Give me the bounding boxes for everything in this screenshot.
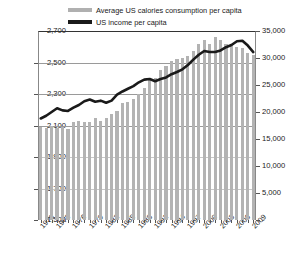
x-tickmark-2009	[253, 220, 254, 223]
x-tickmark-1976	[73, 220, 74, 223]
right-tickmark-5000	[256, 193, 260, 194]
x-tickmark-1988	[139, 220, 140, 223]
right-axis-tick-label: 10,000	[262, 162, 285, 170]
x-tickmark-2003	[221, 220, 222, 223]
x-tickmark-1999	[199, 220, 200, 223]
plot-frame	[38, 31, 256, 220]
x-tickmark-1974	[63, 220, 64, 223]
right-tickmark-10000	[256, 166, 260, 167]
right-axis-tick-label: 25,000	[262, 81, 285, 89]
left-tickmark-1900	[34, 157, 38, 158]
x-tickmark-1978	[84, 220, 85, 223]
x-tickmark-1987	[133, 220, 134, 223]
x-tickmark-1995	[177, 220, 178, 223]
x-tickmark-1986	[128, 220, 129, 223]
left-tickmark-1700	[34, 189, 38, 190]
x-tickmark-2008	[248, 220, 249, 223]
x-tickmark-1972	[52, 220, 53, 223]
right-axis-tick-label: 30,000	[262, 54, 285, 62]
x-tickmark-2005	[231, 220, 232, 223]
x-tickmark-1973	[57, 220, 58, 223]
x-tickmark-1984	[117, 220, 118, 223]
left-tickmark-2300	[34, 94, 38, 95]
x-tickmark-1982	[106, 220, 107, 223]
x-tickmark-1983	[112, 220, 113, 223]
right-tickmark-35000	[256, 31, 260, 32]
x-tickmark-1993	[166, 220, 167, 223]
x-tickmark-1996	[182, 220, 183, 223]
x-tickmark-1991	[155, 220, 156, 223]
right-axis-tick-label: 5,000	[262, 189, 281, 197]
x-tickmark-2000	[204, 220, 205, 223]
x-tickmark-2001	[210, 220, 211, 223]
x-tickmark-1992	[161, 220, 162, 223]
right-tickmark-0	[256, 220, 260, 221]
legend-swatch-bars-icon	[68, 8, 92, 12]
x-tickmark-1975	[68, 220, 69, 223]
x-tickmark-2007	[242, 220, 243, 223]
legend-swatch-line-icon	[68, 20, 92, 24]
x-tickmark-1979	[90, 220, 91, 223]
x-tickmark-2004	[226, 220, 227, 223]
legend-item-income: US income per capita	[68, 17, 242, 27]
x-tickmark-2006	[237, 220, 238, 223]
dual-axis-chart: Average US calories consumption per capi…	[0, 0, 298, 258]
x-tickmark-1977	[79, 220, 80, 223]
right-tickmark-30000	[256, 58, 260, 59]
right-axis-tick-label: 15,000	[262, 135, 285, 143]
right-tickmark-15000	[256, 139, 260, 140]
legend-label-calories: Average US calories consumption per capi…	[96, 6, 242, 15]
x-tickmark-1981	[101, 220, 102, 223]
chart-legend: Average US calories consumption per capi…	[68, 5, 242, 29]
x-tickmark-1989	[144, 220, 145, 223]
legend-item-calories: Average US calories consumption per capi…	[68, 5, 242, 15]
right-tickmark-20000	[256, 112, 260, 113]
x-tickmark-1980	[95, 220, 96, 223]
x-tickmark-1990	[150, 220, 151, 223]
x-tickmark-1998	[193, 220, 194, 223]
right-axis-tick-label: 35,000	[262, 27, 285, 35]
x-tickmark-1994	[172, 220, 173, 223]
x-tickmark-1970	[41, 220, 42, 223]
x-tickmark-1971	[46, 220, 47, 223]
legend-label-income: US income per capita	[96, 18, 167, 27]
right-axis-tick-label: 20,000	[262, 108, 285, 116]
right-tickmark-25000	[256, 85, 260, 86]
x-tickmark-2002	[215, 220, 216, 223]
left-tickmark-2100	[34, 126, 38, 127]
x-tickmark-1985	[122, 220, 123, 223]
plot-area	[38, 31, 256, 220]
left-tickmark-2500	[34, 63, 38, 64]
left-tickmark-1500	[34, 220, 38, 221]
x-tickmark-1997	[188, 220, 189, 223]
